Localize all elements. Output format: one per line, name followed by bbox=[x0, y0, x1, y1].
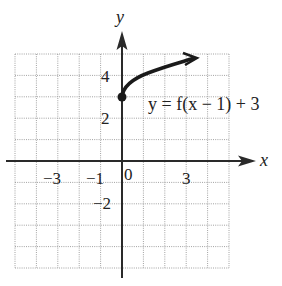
start-point-dot bbox=[118, 93, 127, 102]
function-curve bbox=[122, 59, 193, 98]
y-axis-label: y bbox=[114, 7, 124, 27]
tick-label-x-3: 3 bbox=[182, 169, 191, 188]
equation-label: y = f(x − 1) + 3 bbox=[148, 94, 259, 115]
tick-label-y-neg2: −2 bbox=[93, 194, 111, 213]
tick-label-x-neg3: −3 bbox=[43, 169, 61, 188]
coordinate-graph: y x 4 2 −2 −3 −1 0 3 y = f(x − 1) + 3 bbox=[0, 0, 282, 286]
tick-label-y-4: 4 bbox=[101, 67, 110, 86]
tick-label-x-neg1: −1 bbox=[86, 169, 104, 188]
x-axis-label: x bbox=[259, 150, 268, 170]
tick-label-y-2: 2 bbox=[101, 109, 110, 128]
tick-label-x-0: 0 bbox=[124, 165, 133, 184]
